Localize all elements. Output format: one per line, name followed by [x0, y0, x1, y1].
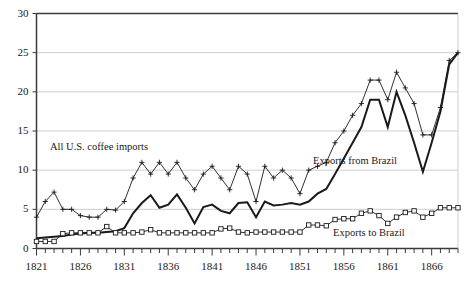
data-point-marker	[403, 85, 408, 90]
data-point-marker	[184, 231, 188, 235]
data-point-marker	[87, 215, 92, 220]
data-point-marker	[324, 224, 328, 228]
data-point-marker	[297, 191, 302, 196]
data-point-marker	[140, 230, 144, 234]
data-point-marker	[175, 231, 179, 235]
data-point-marker	[131, 231, 135, 235]
x-tick-label-1841: 1841	[201, 260, 223, 272]
x-tick-label-1851: 1851	[289, 260, 311, 272]
data-point-marker	[263, 230, 267, 234]
data-point-marker	[210, 231, 214, 235]
data-point-marker	[298, 230, 302, 234]
coffee-trade-chart: 051015202530 182118261831183618411846185…	[0, 0, 468, 284]
x-axis-tick-labels: 1821182618311836184118461851185618611866	[26, 260, 444, 272]
data-point-marker	[254, 230, 258, 234]
gridlines-group	[37, 14, 459, 210]
data-point-marker	[368, 209, 372, 213]
x-tick-label-1846: 1846	[245, 260, 268, 272]
series-annotation-2: Exports to Brazil	[333, 227, 405, 238]
data-point-marker	[368, 77, 373, 82]
data-point-marker	[253, 199, 258, 204]
data-point-marker	[315, 223, 319, 227]
data-point-marker	[280, 230, 284, 234]
series-line-0	[37, 53, 459, 218]
data-point-marker	[386, 221, 390, 225]
data-point-marker	[307, 223, 311, 227]
data-point-marker	[447, 206, 451, 210]
data-point-marker	[69, 231, 73, 235]
y-tick-label-20: 20	[18, 85, 30, 97]
data-point-marker	[87, 231, 91, 235]
x-tick-label-1861: 1861	[377, 260, 399, 272]
data-point-marker	[394, 215, 398, 219]
data-point-marker	[350, 217, 354, 221]
y-tick-label-0: 0	[23, 242, 29, 254]
data-point-marker	[201, 231, 205, 235]
data-point-marker	[34, 239, 38, 243]
data-point-marker	[421, 215, 425, 219]
data-point-marker	[359, 211, 363, 215]
data-point-marker	[411, 101, 416, 106]
y-tick-label-25: 25	[18, 46, 30, 58]
y-tick-label-15: 15	[18, 124, 30, 136]
data-point-marker	[429, 211, 433, 215]
data-point-marker	[342, 217, 346, 221]
chart-canvas: 051015202530 182118261831183618411846185…	[0, 0, 468, 284]
data-point-marker	[412, 209, 416, 213]
data-point-marker	[377, 213, 381, 217]
data-point-marker	[438, 206, 442, 210]
data-point-marker	[219, 227, 223, 231]
data-point-marker	[394, 70, 399, 75]
series-annotation-1: Exports from Brazil	[313, 155, 397, 166]
data-point-marker	[403, 210, 407, 214]
data-point-marker	[130, 175, 135, 180]
data-point-marker	[105, 224, 109, 228]
x-tick-label-1866: 1866	[421, 260, 444, 272]
data-point-marker	[157, 231, 161, 235]
x-tick-label-1856: 1856	[333, 260, 356, 272]
data-point-marker	[122, 231, 126, 235]
data-point-marker	[96, 231, 100, 235]
y-tick-label-30: 30	[18, 7, 30, 19]
x-tick-label-1826: 1826	[69, 260, 92, 272]
data-point-marker	[385, 97, 390, 102]
data-point-marker	[245, 231, 249, 235]
x-tick-label-1831: 1831	[113, 260, 135, 272]
data-point-marker	[271, 230, 275, 234]
y-axis-tick-labels: 051015202530	[18, 7, 30, 254]
data-point-marker	[43, 239, 47, 243]
data-point-marker	[78, 231, 82, 235]
x-tick-marks-group	[37, 249, 459, 256]
y-tick-label-10: 10	[18, 163, 30, 175]
data-point-marker	[236, 230, 240, 234]
y-tick-label-5: 5	[23, 202, 29, 214]
data-point-marker	[227, 226, 231, 230]
data-point-marker	[333, 217, 337, 221]
data-point-marker	[60, 207, 65, 212]
data-point-marker	[376, 77, 381, 82]
data-point-marker	[148, 228, 152, 232]
data-point-marker	[61, 231, 65, 235]
data-point-marker	[52, 239, 56, 243]
data-point-marker	[34, 215, 39, 220]
x-tick-label-1836: 1836	[157, 260, 180, 272]
data-point-marker	[113, 231, 117, 235]
data-point-marker	[306, 168, 311, 173]
data-point-marker	[192, 231, 196, 235]
x-tick-label-1821: 1821	[26, 260, 48, 272]
data-point-marker	[166, 231, 170, 235]
data-point-marker	[420, 132, 425, 137]
data-point-marker	[289, 230, 293, 234]
series-annotation-0: All U.S. coffee imports	[50, 141, 148, 152]
data-point-marker	[456, 206, 460, 210]
